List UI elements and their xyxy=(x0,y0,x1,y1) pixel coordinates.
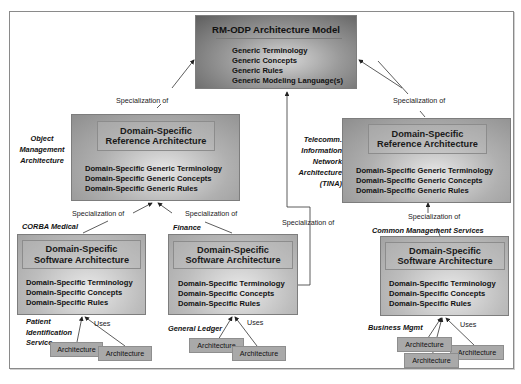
cms-software-architecture-box: Domain-SpecificSoftware Architecture Dom… xyxy=(380,236,509,316)
title-line: Reference Architecture xyxy=(377,139,478,149)
architecture-box: Architecture xyxy=(397,337,452,352)
list-item: Domain-Specific Generic Rules xyxy=(356,186,493,196)
list-item: Domain-Specific Generic Concepts xyxy=(85,174,222,184)
list-item: Domain-Specific Terminology xyxy=(178,279,285,289)
right-reference-architecture-box: Domain-SpecificReference Architecture Do… xyxy=(342,118,511,203)
title-line: Software Architecture xyxy=(34,255,129,265)
software-architecture-title: Domain-SpecificSoftware Architecture xyxy=(22,240,141,269)
reference-items-list: Domain-Specific Generic Terminology Doma… xyxy=(356,166,493,196)
rm-odp-architecture-model-box: RM-ODP Architecture Model Generic Termin… xyxy=(195,15,357,89)
list-item: Domain-Specific Rules xyxy=(26,298,133,308)
tina-label-line: (TINA) xyxy=(292,178,342,189)
uses-label: Uses xyxy=(94,319,110,328)
tina-label-line: Telecomm. xyxy=(292,134,342,145)
general-ledger-label: General Ledger xyxy=(168,323,222,334)
list-item: Domain-Specific Concepts xyxy=(178,289,285,299)
list-item: Domain-Specific Terminology xyxy=(389,279,496,289)
title-line: Domain-Specific xyxy=(34,244,129,254)
tina-label: Telecomm. Information Network Architectu… xyxy=(292,134,342,189)
title-line: Domain-Specific xyxy=(397,246,492,256)
list-item: Domain-Specific Generic Concepts xyxy=(356,176,493,186)
label-line: Identification xyxy=(26,328,72,339)
right-specialization-label: Specialization of xyxy=(393,96,445,105)
title-line: Reference Architecture xyxy=(106,136,207,146)
list-item: Domain-Specific Rules xyxy=(389,299,496,309)
generic-items-list: Generic Terminology Generic Concepts Gen… xyxy=(232,46,343,86)
list-item: Domain-Specific Concepts xyxy=(26,288,133,298)
architecture-box: Architecture xyxy=(404,353,459,368)
list-item: Generic Rules xyxy=(232,66,343,76)
business-mgmt-label: Business Mgmt xyxy=(368,322,423,333)
corba-specialization-label: Specialization of xyxy=(72,209,124,218)
architecture-box: Architecture xyxy=(50,342,103,357)
rm-odp-title: RM-ODP Architecture Model xyxy=(196,24,356,35)
list-item: Domain-Specific Concepts xyxy=(389,289,496,299)
left-reference-architecture-box: Domain-SpecificReference Architecture Do… xyxy=(71,114,240,201)
left-specialization-label: Specialization of xyxy=(116,96,168,105)
architecture-box: Architecture xyxy=(232,346,286,361)
uses-label: Uses xyxy=(247,318,263,327)
corba-medical-label: CORBA Medical xyxy=(22,221,78,232)
label-line: Patient xyxy=(26,317,72,328)
title-divider xyxy=(216,38,342,39)
title-line: Domain-Specific xyxy=(106,126,207,136)
oma-label: Object Management Architecture xyxy=(14,133,70,166)
list-item: Generic Terminology xyxy=(232,46,343,56)
finance-label: Finance xyxy=(173,222,201,233)
finance-specialization-label: Specialization of xyxy=(185,209,237,218)
corba-software-architecture-box: Domain-SpecificSoftware Architecture Dom… xyxy=(17,234,146,315)
title-line: Software Architecture xyxy=(185,255,280,265)
oma-label-line: Management xyxy=(14,144,70,155)
tina-label-line: Architecture xyxy=(292,167,342,178)
tina-label-line: Information xyxy=(292,145,342,156)
title-line: Domain-Specific xyxy=(185,245,280,255)
list-item: Domain-Specific Terminology xyxy=(26,278,133,288)
list-item: Generic Modeling Language(s) xyxy=(232,76,343,86)
architecture-box: Architecture xyxy=(98,346,152,361)
tina-label-line: Network xyxy=(292,156,342,167)
title-line: Software Architecture xyxy=(397,256,492,266)
tina-specialization-label: Specialization of xyxy=(282,218,334,227)
cms-specialization-label: Specialization of xyxy=(408,212,460,221)
list-item: Generic Concepts xyxy=(232,56,343,66)
list-item: Domain-Specific Generic Terminology xyxy=(85,164,222,174)
list-item: Domain-Specific Generic Rules xyxy=(85,184,222,194)
oma-label-line: Object xyxy=(14,133,70,144)
list-item: Domain-Specific Generic Terminology xyxy=(356,166,493,176)
reference-architecture-title: Domain-SpecificReference Architecture xyxy=(368,124,487,154)
title-line: Domain-Specific xyxy=(377,129,478,139)
oma-label-line: Architecture xyxy=(14,155,70,166)
software-architecture-title: Domain-SpecificSoftware Architecture xyxy=(173,241,293,269)
reference-architecture-title: Domain-SpecificReference Architecture xyxy=(97,121,215,151)
finance-software-architecture-box: Domain-SpecificSoftware Architecture Dom… xyxy=(168,234,298,315)
software-items-list: Domain-Specific Terminology Domain-Speci… xyxy=(389,279,496,309)
common-management-services-label: Common Management Services xyxy=(372,225,484,236)
uses-label: Uses xyxy=(460,320,476,329)
software-architecture-title: Domain-SpecificSoftware Architecture xyxy=(385,242,505,270)
list-item: Domain-Specific Rules xyxy=(178,299,285,309)
software-items-list: Domain-Specific Terminology Domain-Speci… xyxy=(178,279,285,309)
software-items-list: Domain-Specific Terminology Domain-Speci… xyxy=(26,278,133,308)
reference-items-list: Domain-Specific Generic Terminology Doma… xyxy=(85,164,222,194)
